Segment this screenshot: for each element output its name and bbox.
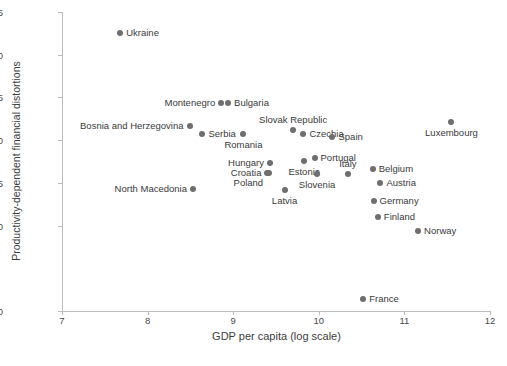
data-point-label: Serbia xyxy=(208,129,235,139)
data-point-label: Slovenia xyxy=(299,180,335,190)
data-point[interactable] xyxy=(312,155,318,161)
footer-cut-text xyxy=(8,357,238,365)
data-point[interactable] xyxy=(187,123,193,129)
data-point-label: Montenegro xyxy=(165,99,216,109)
data-point[interactable] xyxy=(329,134,335,140)
data-point[interactable] xyxy=(218,100,224,106)
data-point-label: Hungary xyxy=(228,158,264,168)
data-point-label: Latvia xyxy=(272,196,297,206)
y-axis-ticks: 00.100.150.200.250.300.35 xyxy=(0,0,55,366)
y-tick-label: 0.30 xyxy=(0,49,3,60)
data-point[interactable] xyxy=(360,296,366,302)
data-point-label: Luxembourg xyxy=(425,128,478,138)
data-point-label: Austria xyxy=(386,178,416,188)
data-point[interactable] xyxy=(371,198,377,204)
x-axis-title: GDP per capita (log scale) xyxy=(62,330,491,342)
data-point-label: Finland xyxy=(384,212,415,222)
data-point-label: Spain xyxy=(338,132,362,142)
y-tick-label: 0.25 xyxy=(0,92,3,103)
data-point-label: Bosnia and Herzegovina xyxy=(80,121,184,131)
y-tick-label: 0.35 xyxy=(0,7,3,18)
data-point[interactable] xyxy=(267,160,273,166)
data-point[interactable] xyxy=(190,186,196,192)
data-point[interactable] xyxy=(282,187,288,193)
data-point[interactable] xyxy=(225,100,231,106)
data-point[interactable] xyxy=(300,131,306,137)
x-tick-label: 12 xyxy=(485,315,496,326)
data-point-label: Belgium xyxy=(379,164,413,174)
data-point[interactable] xyxy=(314,171,320,177)
data-point[interactable] xyxy=(266,170,272,176)
data-point-label: Italy xyxy=(339,159,356,169)
data-point[interactable] xyxy=(370,166,376,172)
data-point-label: Germany xyxy=(380,196,419,206)
data-point-label: Poland xyxy=(234,179,264,189)
data-point[interactable] xyxy=(199,131,205,137)
data-point[interactable] xyxy=(415,228,421,234)
y-tick-label: 0.20 xyxy=(0,135,3,146)
data-point[interactable] xyxy=(377,180,383,186)
scatter-chart-figure: 789101112 00.100.150.200.250.300.35 Ukra… xyxy=(0,0,507,366)
data-point[interactable] xyxy=(117,30,123,36)
plot-area: UkraineMontenegroBulgariaBosnia and Herz… xyxy=(62,12,490,311)
x-tick-label: 7 xyxy=(59,315,64,326)
y-tick-label: 0 xyxy=(0,306,3,317)
data-point[interactable] xyxy=(301,158,307,164)
x-tick-label: 10 xyxy=(314,315,325,326)
y-axis-title: Productivity-dependent financial distort… xyxy=(10,6,22,316)
y-tick-mark xyxy=(58,311,62,312)
data-point-label: Norway xyxy=(424,226,456,236)
x-tick-label: 9 xyxy=(231,315,236,326)
x-tick-label: 11 xyxy=(399,315,409,326)
data-point-label: Romania xyxy=(224,140,262,150)
data-point[interactable] xyxy=(345,171,351,177)
y-tick-label: 0.15 xyxy=(0,177,3,188)
data-point[interactable] xyxy=(290,127,296,133)
data-point-label: Ukraine xyxy=(126,29,159,39)
data-point[interactable] xyxy=(240,131,246,137)
data-point-label: North Macedonia xyxy=(115,184,187,194)
data-point-label: Bulgaria xyxy=(234,99,269,109)
y-tick-label: 0.10 xyxy=(0,220,3,231)
data-point-label: France xyxy=(369,294,399,304)
data-point[interactable] xyxy=(375,214,381,220)
x-tick-label: 8 xyxy=(145,315,150,326)
x-axis-line xyxy=(62,311,491,312)
data-point[interactable] xyxy=(448,119,454,125)
data-point-label: Slovak Republic xyxy=(259,114,327,124)
